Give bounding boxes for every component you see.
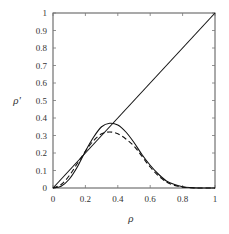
- series-identity: [53, 13, 215, 188]
- x-tick-label: 1: [213, 194, 218, 204]
- y-tick-label: 0.4: [36, 113, 48, 123]
- y-tick-label: 0.1: [36, 166, 47, 176]
- y-tick-label: 0: [43, 183, 48, 193]
- y-tick-label: 0.6: [36, 78, 48, 88]
- y-axis-label: ρ': [12, 94, 21, 106]
- y-tick-label: 0.8: [36, 43, 48, 53]
- x-tick-label: 0.8: [177, 194, 189, 204]
- x-tick-label: 0.2: [80, 194, 91, 204]
- x-tick-label: 0: [51, 194, 56, 204]
- y-tick-label: 0.9: [36, 26, 48, 36]
- y-tick-label: 0.3: [36, 131, 48, 141]
- series-solid-curve: [53, 123, 215, 188]
- x-axis-label: ρ: [127, 212, 133, 224]
- y-tick-label: 1: [43, 8, 48, 18]
- y-tick-label: 0.5: [36, 96, 48, 106]
- chart: 00.20.40.60.8100.10.20.30.40.50.60.70.80…: [0, 0, 229, 234]
- tick-labels: 00.20.40.60.8100.10.20.30.40.50.60.70.80…: [36, 8, 218, 204]
- x-tick-label: 0.4: [112, 194, 124, 204]
- series-dashed-curve: [53, 132, 215, 188]
- x-tick-label: 0.6: [145, 194, 157, 204]
- y-tick-label: 0.2: [36, 148, 47, 158]
- series: [53, 13, 215, 188]
- y-tick-label: 0.7: [36, 61, 48, 71]
